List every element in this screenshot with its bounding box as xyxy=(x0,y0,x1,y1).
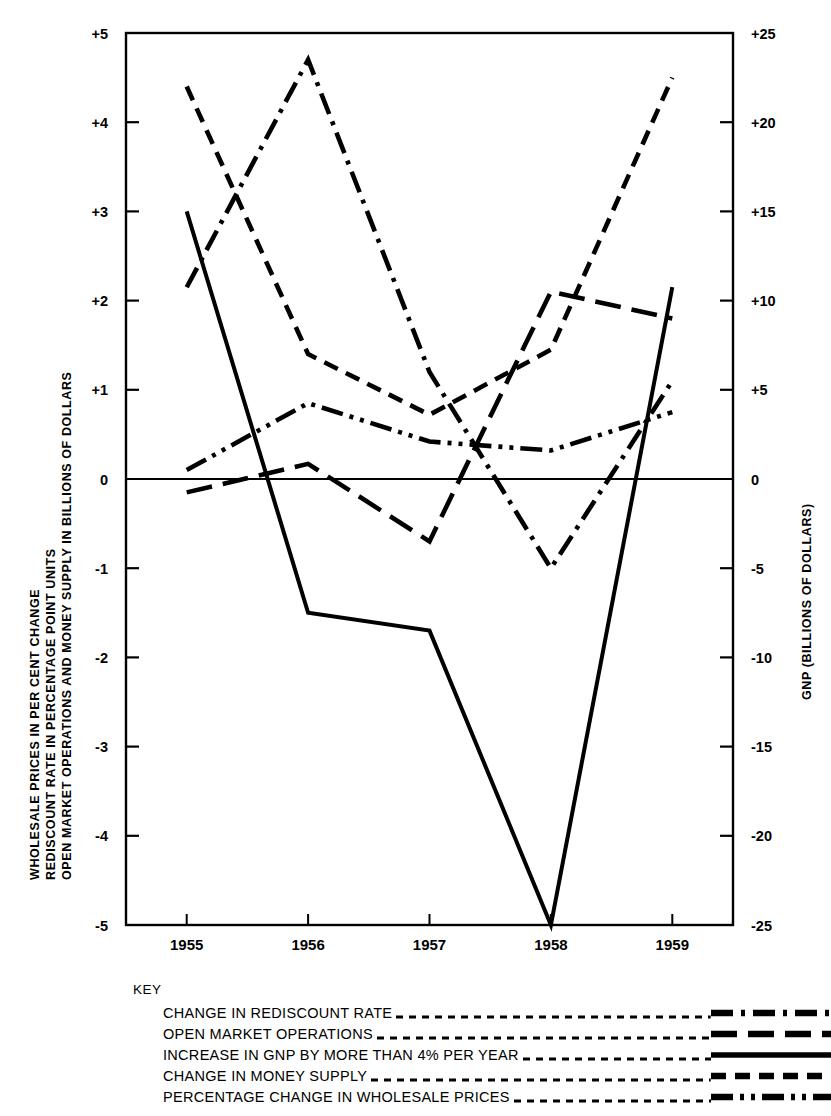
legend-row: OPEN MARKET OPERATIONS xyxy=(133,1023,831,1044)
legend-row: PERCENTAGE CHANGE IN WHOLESALE PRICES xyxy=(133,1086,831,1107)
legend-line-sample xyxy=(711,1006,831,1020)
legend-row: CHANGE IN MONEY SUPPLY xyxy=(133,1065,831,1086)
left-tick-label: -5 xyxy=(95,918,108,934)
right-tick-label: -25 xyxy=(751,918,772,934)
chart-svg: +5+25+4+20+3+15+2+10+1+500-1-5-2-10-3-15… xyxy=(0,0,831,960)
left-tick-label: -2 xyxy=(95,650,108,666)
series-line-2 xyxy=(187,211,673,925)
legend-label: CHANGE IN REDISCOUNT RATE xyxy=(163,1005,392,1021)
right-tick-label: +20 xyxy=(751,115,776,131)
legend-row: INCREASE IN GNP BY MORE THAN 4% PER YEAR xyxy=(133,1044,831,1065)
legend-line-sample xyxy=(711,1069,831,1083)
right-tick-label: 0 xyxy=(751,472,759,488)
legend-leader-dots xyxy=(369,1069,711,1083)
axis-ticks xyxy=(126,122,733,925)
legend-leader-dots xyxy=(375,1027,711,1041)
left-tick-label: 0 xyxy=(100,472,108,488)
left-tick-label: +5 xyxy=(91,26,108,42)
series-line-0 xyxy=(187,60,673,568)
legend-label: OPEN MARKET OPERATIONS xyxy=(163,1026,373,1042)
x-tick-label: 1959 xyxy=(656,936,689,953)
right-tick-label: -15 xyxy=(751,739,772,755)
right-tick-label: +15 xyxy=(751,204,776,220)
legend-leader-dots xyxy=(521,1048,711,1062)
data-series xyxy=(187,60,673,925)
series-line-1 xyxy=(187,292,673,542)
legend-line-sample xyxy=(711,1090,831,1104)
right-tick-label: +25 xyxy=(751,26,776,42)
legend-label: PERCENTAGE CHANGE IN WHOLESALE PRICES xyxy=(163,1089,510,1105)
x-tick-label: 1958 xyxy=(534,936,567,953)
legend-leader-dots xyxy=(512,1090,711,1104)
right-tick-label: +10 xyxy=(751,293,776,309)
left-tick-label: +2 xyxy=(91,293,108,309)
legend-label: INCREASE IN GNP BY MORE THAN 4% PER YEAR xyxy=(163,1047,519,1063)
left-tick-label: +3 xyxy=(91,204,108,220)
x-tick-label: 1955 xyxy=(170,936,203,953)
left-tick-label: -4 xyxy=(95,828,108,844)
left-tick-label: +4 xyxy=(91,115,108,131)
right-tick-label: -5 xyxy=(751,561,764,577)
legend-line-sample xyxy=(711,1027,831,1041)
legend-line-sample xyxy=(711,1048,831,1062)
legend-row: CHANGE IN REDISCOUNT RATE xyxy=(133,1002,831,1023)
legend-leader-dots xyxy=(394,1006,711,1020)
legend-title: KEY xyxy=(133,982,831,997)
chart-page: WHOLESALE PRICES IN PER CENT CHANGE REDI… xyxy=(0,0,831,1116)
right-tick-label: +5 xyxy=(751,382,768,398)
left-tick-label: +1 xyxy=(91,382,108,398)
right-tick-label: -10 xyxy=(751,650,772,666)
series-line-3 xyxy=(187,78,673,415)
x-tick-label: 1957 xyxy=(413,936,446,953)
x-tick-label: 1956 xyxy=(291,936,324,953)
legend-rows: CHANGE IN REDISCOUNT RATEOPEN MARKET OPE… xyxy=(133,1002,831,1107)
left-tick-label: -1 xyxy=(95,561,108,577)
left-tick-label: -3 xyxy=(95,739,108,755)
legend: KEY CHANGE IN REDISCOUNT RATEOPEN MARKET… xyxy=(133,982,831,1107)
right-tick-label: -20 xyxy=(751,828,772,844)
series-line-4 xyxy=(187,403,673,470)
plot-area: +5+25+4+20+3+15+2+10+1+500-1-5-2-10-3-15… xyxy=(0,0,831,960)
legend-label: CHANGE IN MONEY SUPPLY xyxy=(163,1068,367,1084)
